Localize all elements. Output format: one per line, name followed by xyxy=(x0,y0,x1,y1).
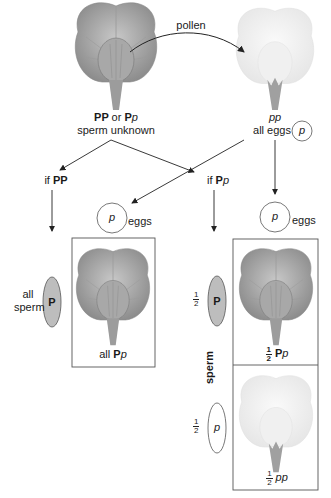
parent-left-genotype: PP or Pp xyxy=(66,111,166,124)
sperm-allele-P-right: P xyxy=(207,295,227,308)
offspring-flower-right-Pp xyxy=(239,249,312,346)
sperm-vertical-label: sperm xyxy=(203,351,216,385)
offspring-pp-label: 12pp xyxy=(255,470,299,487)
pollen-label: pollen xyxy=(166,19,216,32)
parent-right-genotype: pp xyxy=(250,111,300,124)
parent-right-subtitle: all eggs xyxy=(250,124,294,137)
fraction-half-P: 12 xyxy=(193,290,202,308)
arrow-to-if-PP xyxy=(60,140,111,170)
egg-allele-left: p xyxy=(102,211,122,224)
if-Pp-label: if Pp xyxy=(198,174,238,187)
offspring-flower-right-pp xyxy=(239,376,312,473)
eggs-label-left: eggs xyxy=(128,215,158,228)
offspring-Pp-label: 12Pp xyxy=(255,346,299,363)
egg-allele-parent: p xyxy=(292,124,312,137)
egg-allele-right: p xyxy=(265,210,285,223)
offspring-flower-left xyxy=(76,249,149,346)
parent-left-subtitle: sperm unknown xyxy=(66,124,166,137)
fraction-half-p: 12 xyxy=(193,417,202,435)
arrow-to-if-Pp xyxy=(111,140,194,172)
parent-purple-flower xyxy=(75,3,156,110)
if-PP-label: if PP xyxy=(36,174,76,187)
diagram-canvas xyxy=(0,0,331,498)
sperm-allele-P-left: P xyxy=(42,296,62,309)
eggs-label-right: eggs xyxy=(292,214,322,227)
sperm-allele-p-right: p xyxy=(207,421,227,434)
offspring-left-label: all Pp xyxy=(85,348,141,361)
all-sperm-label: all sperm xyxy=(14,288,42,314)
arrow-eggs-left xyxy=(132,140,244,203)
parent-white-flower xyxy=(236,8,313,110)
